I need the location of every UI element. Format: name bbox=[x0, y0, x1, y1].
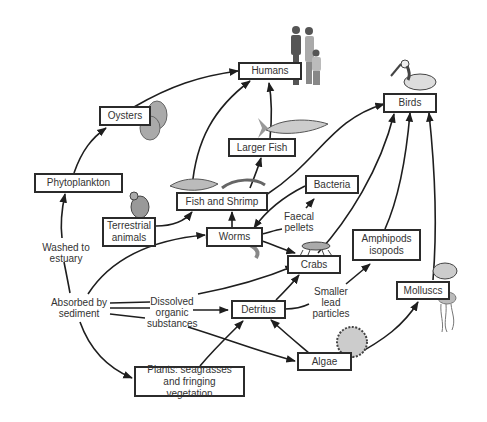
crab-icon bbox=[300, 242, 332, 256]
shrimp-icon bbox=[222, 180, 265, 188]
node-worms-label: Worms bbox=[219, 231, 250, 243]
node-algae: Algae bbox=[297, 352, 352, 371]
label-faecal-pellets: Faecal pellets bbox=[281, 211, 317, 233]
node-birds-label: Birds bbox=[399, 97, 422, 109]
node-oysters-label: Oysters bbox=[108, 110, 142, 122]
node-larger-fish: Larger Fish bbox=[228, 138, 296, 157]
node-molluscs: Molluscs bbox=[396, 281, 450, 300]
label-dissolved-organic-substances: Dissolved organic substances bbox=[147, 296, 197, 329]
node-bacteria-label: Bacteria bbox=[314, 179, 351, 191]
node-worms: Worms bbox=[206, 227, 263, 247]
node-phytoplankton: Phytoplankton bbox=[34, 173, 123, 193]
node-detritus-label: Detritus bbox=[241, 304, 275, 316]
node-crabs: Crabs bbox=[287, 255, 341, 274]
node-fish-and-shrimp: Fish and Shrimp bbox=[176, 192, 268, 211]
node-terrestrial-animals-label: Terrestrial animals bbox=[107, 220, 151, 244]
node-larger-fish-label: Larger Fish bbox=[237, 142, 288, 154]
node-birds: Birds bbox=[383, 93, 437, 113]
node-amphipods-isopods: Amphipods isopods bbox=[352, 229, 421, 261]
node-algae-label: Algae bbox=[312, 356, 338, 368]
node-fish-and-shrimp-label: Fish and Shrimp bbox=[186, 196, 259, 208]
node-detritus: Detritus bbox=[231, 300, 286, 319]
clam-icon bbox=[433, 263, 457, 279]
node-phytoplankton-label: Phytoplankton bbox=[47, 177, 110, 189]
node-molluscs-label: Molluscs bbox=[404, 285, 443, 297]
node-plants-label: Plants: seagrasses and fringing vegetati… bbox=[144, 364, 235, 400]
node-crabs-label: Crabs bbox=[301, 259, 328, 271]
node-amphipods-isopods-label: Amphipods isopods bbox=[360, 233, 413, 257]
node-humans: Humans bbox=[238, 62, 302, 80]
label-smaller-lead-particles: Smaller lead particles bbox=[306, 286, 356, 319]
pelican-icon bbox=[391, 60, 436, 90]
node-terrestrial-animals: Terrestrial animals bbox=[102, 217, 156, 247]
node-plants: Plants: seagrasses and fringing vegetati… bbox=[134, 366, 245, 397]
tuna-icon bbox=[258, 118, 328, 138]
label-washed-to-estuary: Washed to estuary bbox=[38, 242, 94, 264]
node-humans-label: Humans bbox=[251, 65, 288, 77]
trout-icon bbox=[170, 179, 218, 190]
rodent-icon bbox=[130, 192, 149, 218]
node-oysters: Oysters bbox=[99, 106, 151, 126]
food-web-diagram: Humans Oysters Birds Larger Fish Phytopl… bbox=[0, 0, 487, 422]
node-bacteria: Bacteria bbox=[305, 175, 359, 194]
label-absorbed-by-sediment: Absorbed by sediment bbox=[48, 297, 110, 319]
